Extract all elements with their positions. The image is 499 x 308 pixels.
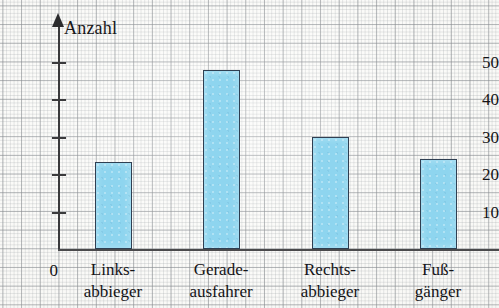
y-axis-arrow-icon (52, 13, 64, 27)
x-label-line2: abbieger (84, 281, 143, 303)
bar-chart-plot-area: Anzahl 10 20 30 40 50 0 Links- abbieger … (0, 0, 499, 308)
y-tick-20 (52, 174, 66, 176)
x-label-line1: Links- (91, 260, 135, 279)
x-label-line2: gänger (415, 281, 461, 303)
x-label-line2: abbieger (301, 281, 360, 303)
x-label-rechts-abbieger: Rechts- abbieger (301, 259, 360, 303)
x-label-line2: ausfahrer (189, 281, 252, 303)
y-tick-40 (52, 99, 66, 101)
chart-screenshot: Anzahl 10 20 30 40 50 0 Links- abbieger … (0, 0, 499, 308)
x-label-line1: Fuß- (422, 260, 454, 279)
bar-links-abbieger (95, 162, 132, 249)
bar-rechts-abbieger (312, 137, 349, 249)
bar-fuss-gaenger (420, 159, 457, 249)
x-label-gerade-ausfahrer: Gerade- ausfahrer (189, 259, 252, 303)
y-axis-title: Anzahl (64, 18, 117, 39)
y-tick-label-20: 20 (453, 165, 499, 185)
y-tick-label-0: 0 (12, 261, 58, 281)
y-tick-label-30: 30 (453, 128, 499, 148)
y-tick-30 (52, 137, 66, 139)
y-tick-label-50: 50 (453, 53, 499, 73)
x-axis-line (58, 249, 499, 251)
y-tick-label-10: 10 (453, 203, 499, 223)
x-label-line1: Rechts- (304, 260, 356, 279)
x-label-line1: Gerade- (194, 260, 249, 279)
y-tick-label-40: 40 (453, 90, 499, 110)
x-label-links-abbieger: Links- abbieger (84, 259, 143, 303)
bar-gerade-ausfahrer (203, 70, 240, 250)
y-tick-10 (52, 212, 66, 214)
y-tick-50 (52, 62, 66, 64)
x-label-fuss-gaenger: Fuß- gänger (415, 259, 461, 303)
